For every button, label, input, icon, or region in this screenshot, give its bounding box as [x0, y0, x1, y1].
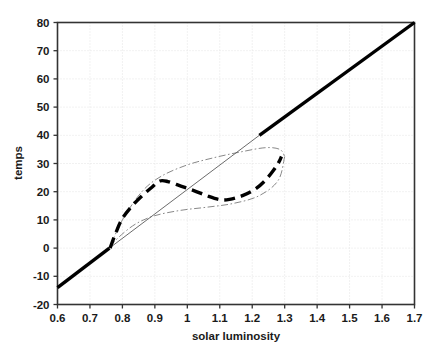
- x-tick-label: 1.3: [277, 312, 293, 324]
- x-tick-label: 1.6: [374, 312, 390, 324]
- chart-figure: 0.60.70.80.911.11.21.31.41.51.61.7 80706…: [0, 0, 436, 350]
- y-tick-label: -20: [33, 299, 50, 311]
- x-tick-label: 0.9: [147, 312, 163, 324]
- x-tick-label: 0.7: [82, 312, 98, 324]
- x-tick-label: 1: [184, 312, 191, 324]
- y-tick-label: 30: [37, 158, 50, 170]
- y-axis-title: temps: [12, 146, 24, 180]
- x-tick-label: 1.2: [244, 312, 260, 324]
- y-tick-label: 70: [37, 45, 50, 57]
- y-tick-label: 40: [37, 129, 50, 141]
- y-tick-label: 0: [43, 242, 49, 254]
- y-tick-label: 20: [37, 186, 50, 198]
- y-tick-label: -10: [33, 270, 50, 282]
- x-axis-title: solar luminosity: [192, 330, 281, 342]
- x-tick-label: 1.7: [407, 312, 423, 324]
- x-tick-label: 1.1: [212, 312, 229, 324]
- y-tick-label: 60: [37, 73, 50, 85]
- x-tick-label: 0.6: [50, 312, 66, 324]
- hysteresis-line-chart: 0.60.70.80.911.11.21.31.41.51.61.7 80706…: [0, 0, 436, 350]
- y-tick-label: 10: [37, 214, 50, 226]
- y-tick-label: 80: [37, 17, 50, 29]
- x-tick-label: 0.8: [114, 312, 131, 324]
- y-tick-label: 50: [37, 101, 50, 113]
- x-tick-label: 1.4: [309, 312, 326, 324]
- x-tick-label: 1.5: [342, 312, 359, 324]
